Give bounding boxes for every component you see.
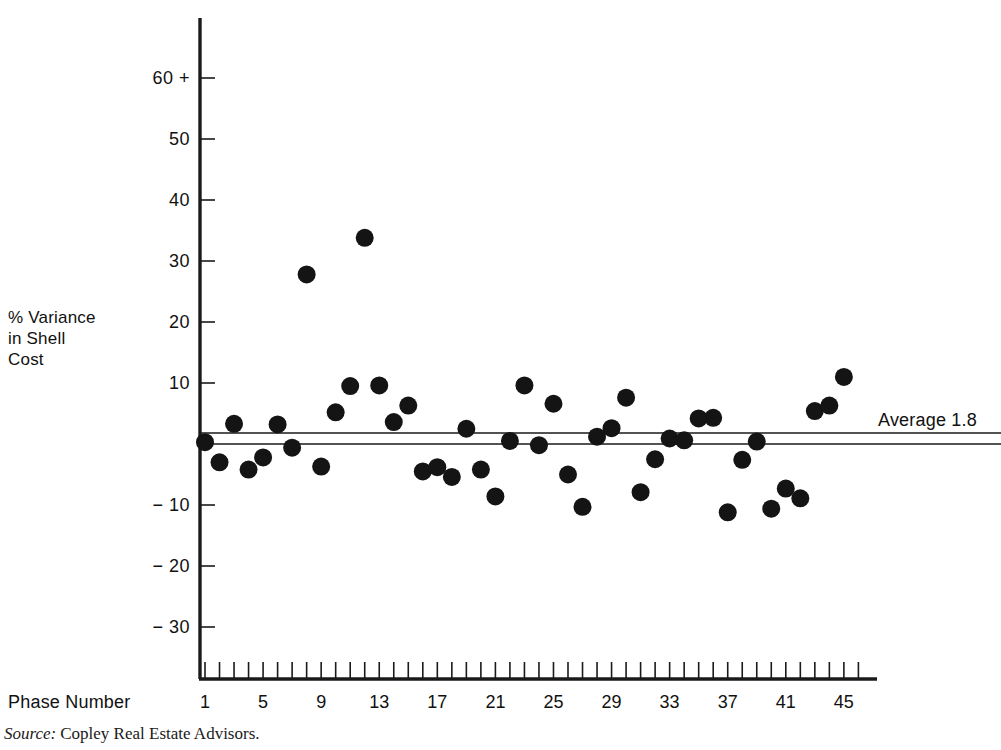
x-tick-label: 21 (475, 693, 515, 711)
data-point (791, 489, 809, 507)
x-tick-label: 17 (417, 693, 457, 711)
data-point (486, 487, 504, 505)
y-tick-label: 40 (124, 191, 190, 209)
x-tick-label: 13 (359, 693, 399, 711)
data-point (211, 453, 229, 471)
data-point (515, 376, 533, 394)
data-point (733, 451, 751, 469)
y-tick-label: 50 (124, 130, 190, 148)
data-point (704, 409, 722, 427)
data-point (356, 229, 374, 247)
x-tick-label: 5 (243, 693, 283, 711)
x-tick-label: 33 (650, 693, 690, 711)
data-point (530, 436, 548, 454)
data-point (240, 461, 258, 479)
y-tick-label: − 20 (124, 557, 190, 575)
data-point (472, 461, 490, 479)
x-tick-label: 25 (533, 693, 573, 711)
data-point (617, 389, 635, 407)
data-point (341, 377, 359, 395)
data-point (399, 397, 417, 415)
data-point (196, 433, 214, 451)
y-tick-label: − 10 (124, 496, 190, 514)
data-point (748, 433, 766, 451)
data-point (719, 503, 737, 521)
data-point (283, 439, 301, 457)
data-point (457, 420, 475, 438)
data-point (835, 368, 853, 386)
data-point (675, 431, 693, 449)
data-point (385, 413, 403, 431)
y-axis-ticks (200, 78, 215, 627)
data-point (298, 265, 316, 283)
x-tick-label: 45 (824, 693, 864, 711)
y-tick-label: 30 (124, 252, 190, 270)
data-point (820, 397, 838, 415)
y-tick-label: 60 + (124, 69, 190, 87)
data-point (544, 395, 562, 413)
y-tick-label: − 30 (124, 618, 190, 636)
data-point (269, 415, 287, 433)
axis-spines (199, 18, 877, 679)
data-point (254, 448, 272, 466)
data-point (370, 376, 388, 394)
data-point (574, 498, 592, 516)
data-point (443, 468, 461, 486)
data-points (196, 229, 853, 522)
data-point (312, 458, 330, 476)
x-tick-label: 29 (592, 693, 632, 711)
x-axis-ticks (205, 662, 858, 679)
data-point (225, 415, 243, 433)
x-tick-label: 41 (766, 693, 806, 711)
y-tick-label: 20 (124, 313, 190, 331)
data-point (762, 500, 780, 518)
data-point (632, 483, 650, 501)
data-point (327, 403, 345, 421)
x-tick-label: 37 (708, 693, 748, 711)
y-tick-label: 10 (124, 374, 190, 392)
data-point (646, 450, 664, 468)
data-point (501, 432, 519, 450)
x-tick-label: 9 (301, 693, 341, 711)
data-point (559, 466, 577, 484)
scatter-plot-figure: % Variance in Shell Cost Phase Number Av… (0, 0, 1001, 750)
data-point (603, 419, 621, 437)
x-tick-label: 1 (185, 693, 225, 711)
